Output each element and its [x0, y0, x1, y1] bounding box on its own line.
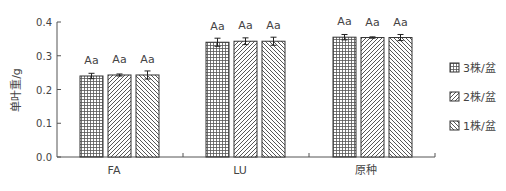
legend-swatch — [450, 63, 459, 72]
legend-label: 2株/盆 — [463, 90, 496, 104]
bar — [234, 41, 257, 157]
bar — [136, 75, 159, 157]
y-axis: 0.00.10.20.30.4 — [36, 17, 61, 163]
significance-label: Aa — [266, 19, 280, 32]
significance-label: Aa — [140, 53, 154, 66]
y-axis-label: 单叶重/g — [9, 68, 23, 112]
y-tick-label: 0.1 — [36, 118, 52, 129]
bar — [389, 38, 412, 157]
x-category-label: 原种 — [355, 163, 377, 177]
bars: AaAaAaAaAaAaAaAaAa — [80, 15, 412, 157]
y-tick-label: 0.2 — [36, 85, 52, 96]
y-tick-label: 0.0 — [36, 152, 52, 163]
significance-label: Aa — [112, 53, 126, 66]
bar — [206, 42, 229, 157]
bar — [361, 38, 384, 157]
significance-label: Aa — [337, 15, 351, 28]
y-tick-label: 0.4 — [36, 17, 52, 28]
significance-label: Aa — [210, 20, 224, 33]
x-category-label: FA — [108, 164, 121, 177]
significance-label: Aa — [393, 16, 407, 29]
bar — [108, 75, 131, 157]
x-category-label: LU — [233, 164, 247, 177]
bar-chart: 单叶重/g 0.00.10.20.30.4 FALU原种 AaAaAaAaAaA… — [0, 0, 506, 191]
legend: 3株/盆2株/盆1株/盆 — [450, 61, 496, 133]
bar — [333, 37, 356, 157]
legend-label: 1株/盆 — [463, 119, 496, 133]
significance-label: Aa — [365, 16, 379, 29]
bar — [262, 41, 285, 157]
significance-label: Aa — [238, 19, 252, 32]
legend-swatch — [450, 92, 459, 101]
bar — [80, 76, 103, 157]
y-tick-label: 0.3 — [36, 51, 52, 62]
legend-swatch — [450, 121, 459, 130]
significance-label: Aa — [84, 54, 98, 67]
legend-label: 3株/盆 — [463, 61, 496, 75]
